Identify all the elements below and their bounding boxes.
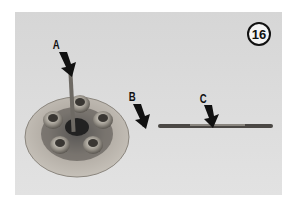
photo: 16 A B C — [15, 12, 282, 195]
arrow-down-icon — [132, 104, 152, 130]
figure-number-badge: 16 — [247, 22, 271, 46]
callout-label-c: C — [200, 92, 207, 106]
callout-label-a: A — [53, 38, 60, 52]
arrow-down-icon — [57, 52, 77, 78]
arrow-down-icon — [201, 105, 221, 129]
callout-label-b: B — [129, 90, 136, 104]
